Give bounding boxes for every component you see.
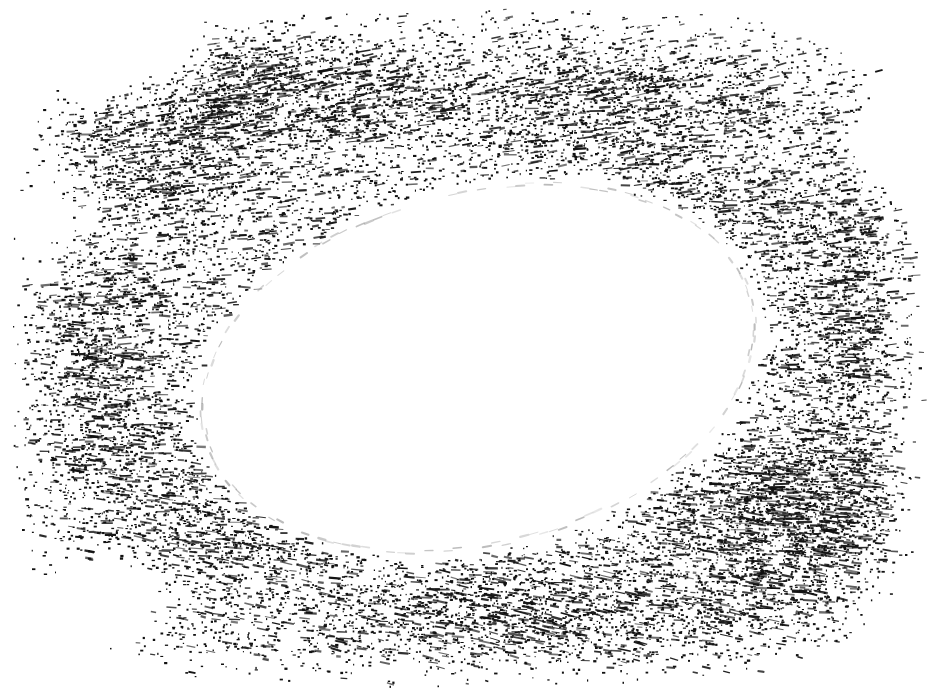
charcoal-drawing: Untitled charcoal study A densely hatche… <box>0 0 935 694</box>
artwork-canvas: Untitled charcoal study A densely hatche… <box>0 0 935 694</box>
